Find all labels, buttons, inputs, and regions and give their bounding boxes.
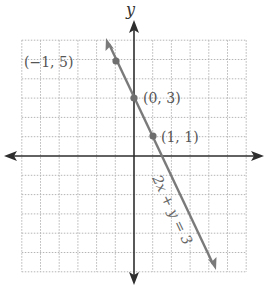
point-neg1-5 [112,57,119,64]
y-axis: y [125,0,139,285]
point-0-3 [130,94,137,101]
equation-label: 2x + y = 3 [149,172,196,248]
point-label-0-3: (0, 3) [143,90,181,106]
point-label-1-1: (1, 1) [161,129,199,145]
y-axis-label: y [125,0,136,19]
coordinate-plane: y (−1, 5) (0, 3) (1, 1) 2x + y = 3 [0,0,268,287]
point-label-neg1-5: (−1, 5) [24,54,73,70]
line-2x-plus-y-equals-3 [106,38,217,270]
point-1-1 [149,132,156,139]
